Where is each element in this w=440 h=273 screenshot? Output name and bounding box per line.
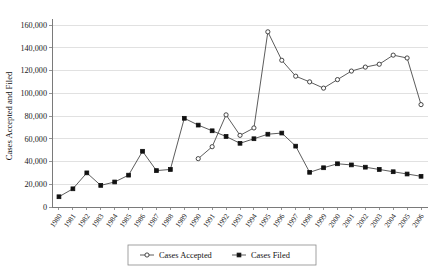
data-point bbox=[308, 170, 312, 174]
series-cases-accepted bbox=[196, 30, 423, 161]
x-tick-label: 2001 bbox=[340, 212, 356, 230]
chart-legend: Cases AcceptedCases Filed bbox=[128, 245, 316, 265]
data-point bbox=[419, 174, 423, 178]
y-axis-title: Cases Accepted and Filed bbox=[4, 71, 14, 160]
x-tick-label: 2004 bbox=[382, 212, 398, 230]
x-tick-label: 1992 bbox=[215, 212, 231, 230]
data-point bbox=[182, 116, 186, 120]
data-point bbox=[335, 78, 339, 82]
data-point bbox=[363, 165, 367, 169]
y-tick-label: 20,000 bbox=[24, 180, 47, 189]
y-tick-label: 140,000 bbox=[20, 44, 47, 53]
data-point bbox=[321, 86, 325, 90]
legend-marker-filled-square-icon bbox=[237, 253, 241, 257]
data-point bbox=[99, 183, 103, 187]
data-point bbox=[266, 30, 270, 34]
x-tick-label: 2003 bbox=[368, 212, 384, 230]
data-point bbox=[377, 168, 381, 172]
data-point bbox=[113, 180, 117, 184]
x-tick-labels-group: 1980198119821983198419851986198719881989… bbox=[48, 207, 426, 229]
data-point bbox=[85, 171, 89, 175]
data-point bbox=[294, 144, 298, 148]
x-tick-label: 1998 bbox=[299, 212, 315, 230]
x-tick-label: 1980 bbox=[48, 212, 64, 230]
data-point bbox=[252, 126, 256, 130]
data-point bbox=[224, 113, 228, 117]
data-point bbox=[210, 145, 214, 149]
x-tick-label: 1988 bbox=[159, 212, 175, 230]
x-tick-label: 1994 bbox=[243, 212, 259, 230]
x-tick-label: 1981 bbox=[62, 212, 78, 230]
data-point bbox=[57, 195, 61, 199]
axes-group bbox=[52, 19, 428, 207]
data-point bbox=[322, 166, 326, 170]
data-point bbox=[349, 69, 353, 73]
x-tick-label: 2002 bbox=[354, 212, 370, 230]
legend-label: Cases Accepted bbox=[159, 251, 213, 260]
legend-label: Cases Filed bbox=[251, 251, 291, 260]
data-point bbox=[419, 103, 423, 107]
data-point bbox=[252, 137, 256, 141]
x-tick-label: 1996 bbox=[271, 212, 287, 230]
data-point bbox=[294, 74, 298, 78]
data-point bbox=[280, 131, 284, 135]
data-point bbox=[141, 149, 145, 153]
x-tick-label: 1997 bbox=[285, 212, 301, 230]
data-point bbox=[266, 132, 270, 136]
x-tick-label: 1982 bbox=[76, 212, 92, 230]
x-tick-label: 1987 bbox=[145, 212, 161, 230]
y-tick-label: 120,000 bbox=[20, 66, 47, 75]
line-chart: 020,00040,00060,00080,000100,000120,0001… bbox=[0, 0, 440, 273]
x-tick-label: 1995 bbox=[257, 212, 273, 230]
x-tick-label: 2006 bbox=[410, 212, 426, 230]
x-tick-label: 2005 bbox=[396, 212, 412, 230]
data-point bbox=[168, 168, 172, 172]
data-point bbox=[127, 173, 131, 177]
data-point bbox=[350, 163, 354, 167]
series-cases-filed bbox=[57, 116, 423, 198]
x-tick-label: 1983 bbox=[90, 212, 106, 230]
data-point bbox=[238, 133, 242, 137]
series-line bbox=[59, 118, 421, 196]
data-point bbox=[308, 80, 312, 84]
y-tick-label: 60,000 bbox=[24, 135, 47, 144]
data-point bbox=[224, 135, 228, 139]
data-point bbox=[155, 169, 159, 173]
x-tick-label: 1991 bbox=[201, 212, 217, 230]
x-tick-label: 1990 bbox=[187, 212, 203, 230]
x-tick-label: 1989 bbox=[173, 212, 189, 230]
x-tick-label: 1986 bbox=[132, 212, 148, 230]
data-point bbox=[363, 65, 367, 69]
x-tick-label: 1999 bbox=[313, 212, 329, 230]
data-point bbox=[196, 157, 200, 161]
data-point bbox=[210, 129, 214, 133]
chart-figure: 020,00040,00060,00080,000100,000120,0001… bbox=[0, 0, 440, 273]
data-point bbox=[405, 172, 409, 176]
data-point bbox=[71, 187, 75, 191]
x-tick-label: 1993 bbox=[229, 212, 245, 230]
y-tick-label: 100,000 bbox=[20, 89, 47, 98]
x-tick-label: 1984 bbox=[104, 212, 120, 230]
y-tick-labels-group: 020,00040,00060,00080,000100,000120,0001… bbox=[20, 21, 52, 212]
data-point bbox=[377, 62, 381, 66]
y-tick-label: 40,000 bbox=[24, 157, 47, 166]
x-tick-label: 1985 bbox=[118, 212, 134, 230]
data-point bbox=[336, 162, 340, 166]
data-point bbox=[391, 170, 395, 174]
legend-marker-open-circle-icon bbox=[145, 253, 149, 257]
x-tick-label: 2000 bbox=[326, 212, 342, 230]
y-tick-label: 0 bbox=[43, 203, 47, 212]
data-point bbox=[391, 53, 395, 57]
data-point bbox=[405, 56, 409, 60]
y-tick-label: 160,000 bbox=[20, 21, 47, 30]
data-point bbox=[238, 141, 242, 145]
gridlines-group bbox=[52, 25, 428, 184]
data-point bbox=[196, 123, 200, 127]
y-tick-label: 80,000 bbox=[24, 112, 47, 121]
data-point bbox=[280, 58, 284, 62]
